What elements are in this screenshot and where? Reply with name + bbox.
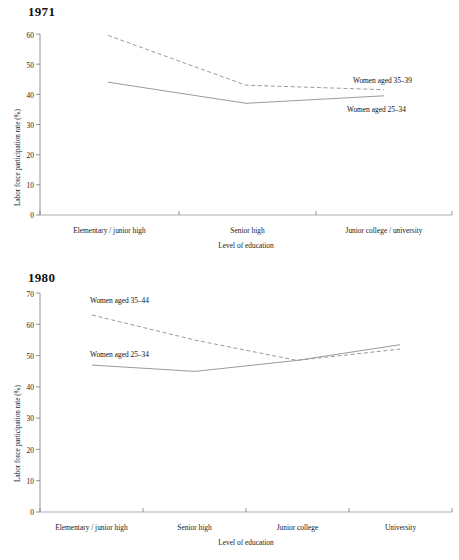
x-tick-label: Junior college / university <box>316 226 452 235</box>
series-annotation-35-44: Women aged 35–44 <box>90 296 149 305</box>
plot-area-1971 <box>0 0 459 262</box>
x-axis-title-1980: Level of education <box>40 538 452 547</box>
series-annotation-25-34: Women aged 25–34 <box>90 350 149 359</box>
x-tick-label: Junior college <box>246 523 349 532</box>
series-line-35-39 <box>108 35 384 89</box>
x-tick-label: Senior high <box>143 523 246 532</box>
chart-panel-1971: 1971 Labor force participation rate (%) … <box>0 0 459 262</box>
chart-panel-1980: 1980 Labor force participation rate (%) … <box>0 262 459 560</box>
series-annotation-35-39: Women aged 35–39 <box>353 76 412 85</box>
x-tick-label: Elementary / junior high <box>40 523 143 532</box>
x-tick-label: Elementary / junior high <box>40 226 179 235</box>
x-tick-label: Senior high <box>179 226 316 235</box>
x-tick-label: University <box>349 523 452 532</box>
x-axis-title-1971: Level of education <box>40 241 452 250</box>
series-annotation-25-34: Women aged 25–34 <box>347 105 406 114</box>
plot-area-1980 <box>0 262 459 560</box>
